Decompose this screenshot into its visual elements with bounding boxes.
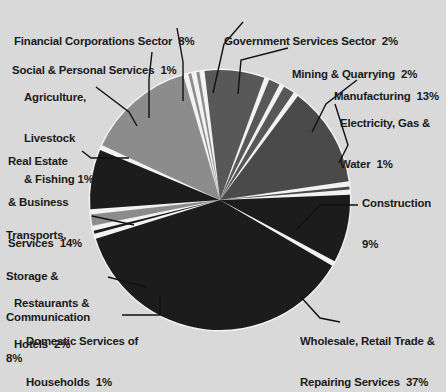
label-transports-line1: Transports, xyxy=(6,229,90,243)
label-construction-line1: Construction xyxy=(362,197,431,211)
label-real-estate-line1: Real Estate xyxy=(8,155,82,169)
label-domestic-line1: Domestic Services of xyxy=(26,335,138,349)
label-domestic-line2: Households 1% xyxy=(26,376,138,390)
label-agriculture-line1: Agriculture, xyxy=(24,91,94,105)
label-construction: Construction 9% xyxy=(362,170,431,279)
label-wholesale-line2: Repairing Services 37% xyxy=(300,376,435,390)
label-construction-line2: 9% xyxy=(362,238,431,252)
label-electricity-line1: Electricity, Gas & xyxy=(340,117,430,131)
label-wholesale-line1: Wholesale, Retail Trade & xyxy=(300,335,435,349)
label-domestic: Domestic Services of Households 1% xyxy=(26,308,138,392)
label-wholesale: Wholesale, Retail Trade & Repairing Serv… xyxy=(300,308,435,392)
